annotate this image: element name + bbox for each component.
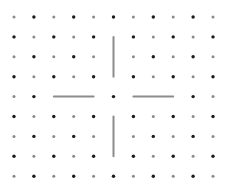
dark-dot (132, 115, 135, 118)
light-dot (13, 135, 16, 138)
light-dot (72, 115, 75, 118)
dark-dot (32, 55, 35, 58)
light-dot (152, 155, 155, 158)
dark-dot (172, 155, 175, 158)
dark-dot (52, 155, 55, 158)
light-dot (212, 95, 215, 98)
dot-grid-diagram (0, 0, 233, 192)
dark-dot (132, 35, 135, 38)
dark-dot (211, 155, 214, 158)
dark-dot (72, 175, 75, 178)
light-dot (13, 95, 16, 98)
dark-dot (72, 135, 75, 138)
light-dot (32, 35, 35, 38)
dark-dot (172, 35, 175, 38)
light-dot (212, 16, 215, 19)
light-dot (192, 155, 195, 158)
dark-dot (152, 55, 155, 58)
light-dot (32, 155, 35, 158)
dark-dot (211, 75, 214, 78)
dark-dot (112, 95, 115, 98)
dark-dot (132, 155, 135, 158)
dark-dot (72, 15, 75, 18)
dark-dot (191, 55, 194, 58)
light-dot (152, 35, 155, 38)
dark-dot (172, 115, 175, 118)
dark-dot (152, 135, 155, 138)
dark-dot (92, 35, 95, 38)
light-dot (92, 175, 95, 178)
dark-dot (12, 35, 15, 38)
dark-dot (152, 175, 155, 178)
dark-dot (92, 115, 95, 118)
dark-dot (211, 115, 214, 118)
light-dot (192, 35, 195, 38)
light-dot (13, 16, 16, 19)
light-dot (172, 135, 175, 138)
dark-dot (132, 75, 135, 78)
light-dot (212, 55, 215, 58)
light-dot (92, 135, 95, 138)
dark-dot (112, 15, 115, 18)
dark-dot (32, 95, 35, 98)
light-dot (172, 16, 175, 19)
light-dot (52, 55, 55, 58)
light-dot (72, 35, 75, 38)
light-dot (13, 175, 16, 178)
dark-dot (32, 135, 35, 138)
dark-dot (52, 115, 55, 118)
light-dot (172, 55, 175, 58)
light-dot (52, 135, 55, 138)
light-dot (13, 55, 16, 58)
dark-dot (72, 55, 75, 58)
dark-dot (12, 75, 15, 78)
light-dot (192, 75, 195, 78)
light-dot (72, 75, 75, 78)
dark-dot (191, 175, 194, 178)
light-dot (212, 175, 215, 178)
dark-dot (191, 15, 194, 18)
light-dot (92, 16, 95, 19)
dark-dot (12, 155, 15, 158)
light-dot (152, 75, 155, 78)
light-dot (172, 175, 175, 178)
dark-dot (152, 15, 155, 18)
light-dot (192, 115, 195, 118)
dark-dot (112, 175, 115, 178)
light-dot (152, 115, 155, 118)
light-dot (52, 16, 55, 19)
dark-dot (92, 155, 95, 158)
light-dot (132, 175, 135, 178)
dark-dot (32, 175, 35, 178)
dark-dot (191, 135, 194, 138)
light-dot (132, 16, 135, 19)
light-dot (52, 175, 55, 178)
light-dot (72, 155, 75, 158)
dark-dot (191, 95, 194, 98)
dot-grid-canvas (0, 0, 233, 192)
dark-dot (12, 115, 15, 118)
light-dot (132, 135, 135, 138)
dark-dot (52, 75, 55, 78)
dark-dot (52, 35, 55, 38)
light-dot (32, 115, 35, 118)
light-dot (32, 75, 35, 78)
dark-dot (211, 35, 214, 38)
light-dot (92, 55, 95, 58)
dark-dot (92, 75, 95, 78)
light-dot (212, 135, 215, 138)
light-dot (132, 55, 135, 58)
dark-dot (32, 15, 35, 18)
dark-dot (172, 75, 175, 78)
